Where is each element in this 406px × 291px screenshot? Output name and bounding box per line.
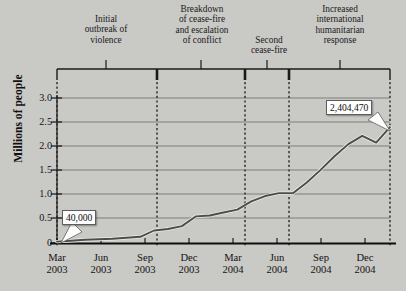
event-bracket: [57, 60, 390, 80]
end-value-callout: 2,404,470: [326, 100, 372, 115]
callout-pointers: [61, 112, 390, 243]
start-value-callout: 40,000: [62, 210, 96, 225]
chart-canvas: [0, 0, 406, 291]
data-series-displaced-people: [57, 127, 390, 242]
gridlines-horizontal: [57, 98, 390, 218]
